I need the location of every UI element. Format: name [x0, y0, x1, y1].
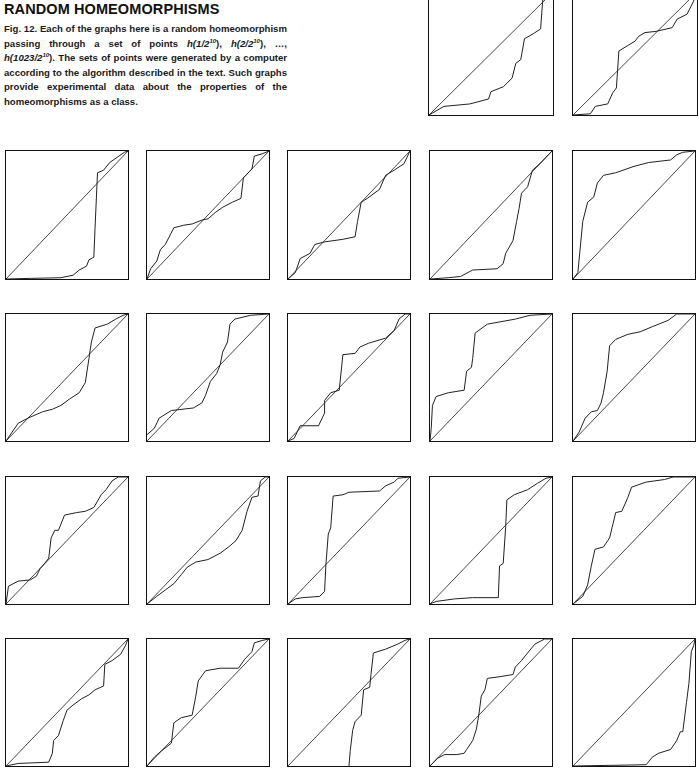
identity-diagonal — [430, 151, 552, 279]
homeomorphism-plot-r3c1 — [5, 476, 129, 605]
point-2: h(2/210 — [231, 38, 260, 49]
homeomorphism-plot-r2c4 — [429, 313, 553, 442]
ellipsis: …, — [275, 38, 287, 49]
homeomorphism-plot-r1c1 — [5, 150, 129, 280]
figure-label: Fig. 12. — [4, 23, 37, 34]
identity-diagonal — [147, 314, 269, 441]
identity-diagonal — [6, 639, 128, 766]
identity-diagonal — [430, 314, 552, 441]
homeomorphism-curve — [147, 314, 269, 435]
homeomorphism-plot-top-2 — [572, 0, 698, 116]
identity-diagonal — [6, 314, 128, 441]
page-title: RANDOM HOMEOMORPHISMS — [4, 1, 220, 17]
identity-diagonal — [429, 0, 553, 115]
identity-diagonal — [6, 151, 128, 279]
identity-diagonal — [573, 151, 695, 279]
identity-diagonal — [6, 477, 128, 604]
point-last: h(1023/210 — [4, 52, 49, 63]
homeomorphism-plot-r4c1 — [5, 638, 129, 767]
homeomorphism-plot-r2c5 — [572, 313, 696, 442]
identity-diagonal — [147, 477, 269, 604]
homeomorphism-plot-top-1 — [428, 0, 554, 116]
homeomorphism-plot-r2c2 — [146, 313, 270, 442]
homeomorphism-plot-r1c3 — [287, 150, 411, 280]
homeomorphism-plot-r4c3 — [287, 638, 411, 767]
homeomorphism-plot-r3c4 — [429, 476, 553, 605]
identity-diagonal — [147, 639, 269, 766]
homeomorphism-curve — [573, 0, 697, 115]
identity-diagonal — [573, 0, 697, 115]
homeomorphism-plot-r1c4 — [429, 150, 553, 280]
homeomorphism-plot-r3c3 — [287, 476, 411, 605]
figure-caption: Fig. 12. Each of the graphs here is a ra… — [4, 22, 287, 110]
identity-diagonal — [288, 151, 410, 279]
identity-diagonal — [430, 639, 552, 766]
homeomorphism-plot-r3c2 — [146, 476, 270, 605]
homeomorphism-plot-r2c3 — [287, 313, 411, 442]
identity-diagonal — [430, 477, 552, 604]
homeomorphism-plot-r3c5 — [572, 476, 696, 605]
identity-diagonal — [288, 639, 410, 766]
homeomorphism-plot-r4c2 — [146, 638, 270, 767]
homeomorphism-plot-r4c5 — [572, 638, 696, 767]
homeomorphism-plot-r1c5 — [572, 150, 696, 280]
identity-diagonal — [288, 477, 410, 604]
homeomorphism-curve — [429, 0, 553, 115]
identity-diagonal — [573, 639, 695, 766]
identity-diagonal — [573, 477, 695, 604]
homeomorphism-plot-r1c2 — [146, 150, 270, 280]
homeomorphism-curve — [349, 639, 410, 766]
point-1: h(1/210 — [187, 38, 216, 49]
homeomorphism-plot-r4c4 — [429, 638, 553, 767]
homeomorphism-plot-r2c1 — [5, 313, 129, 442]
